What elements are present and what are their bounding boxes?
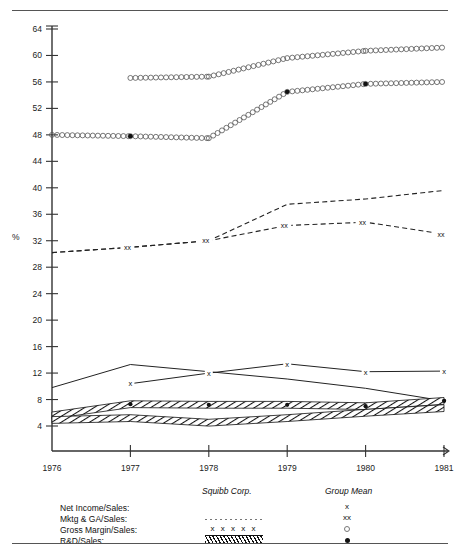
legend-swatch-mktg-ga-group: xx: [337, 513, 357, 522]
svg-text:xx: xx: [438, 231, 446, 238]
x-tick-labels: 197619771978197919801981: [43, 463, 454, 473]
svg-text:1977: 1977: [121, 463, 140, 473]
svg-text:4: 4: [37, 421, 42, 431]
legend-swatch-gross-margin-company: x x x x x: [205, 524, 263, 533]
svg-text:32: 32: [33, 236, 43, 246]
svg-text:xx: xx: [124, 244, 132, 251]
legend-label-mktg-ga: Mktg & GA/Sales:: [60, 514, 127, 524]
bottom-divider: [12, 543, 448, 544]
svg-text:xx: xx: [202, 237, 210, 244]
svg-text:x: x: [285, 360, 289, 369]
svg-text:8: 8: [37, 395, 42, 405]
legend-header-group: Group Mean: [325, 486, 372, 496]
y-axis-unit-label: %: [12, 232, 20, 242]
svg-text:x: x: [207, 369, 211, 378]
svg-text:24: 24: [33, 289, 43, 299]
svg-text:xx: xx: [281, 222, 289, 229]
svg-text:52: 52: [33, 103, 43, 113]
svg-text:12: 12: [33, 368, 43, 378]
svg-text:x: x: [442, 367, 446, 376]
svg-text:36: 36: [33, 209, 43, 219]
legend-label-gross-margin: Gross Margin/Sales:: [60, 525, 137, 535]
legend-swatch-net-income-group: x: [340, 502, 354, 511]
x-axis: [52, 447, 449, 455]
svg-text:1980: 1980: [356, 463, 375, 473]
chart-page: 481216202428323640444852566064 197619771…: [0, 0, 460, 553]
data-series-layer: xxxxxxxxxxxxxxx: [50, 45, 449, 426]
svg-text:64: 64: [33, 24, 43, 34]
svg-text:56: 56: [33, 77, 43, 87]
y-axis: [46, 26, 58, 453]
y-tick-labels: 481216202428323640444852566064: [33, 24, 43, 431]
svg-text:1978: 1978: [199, 463, 218, 473]
legend-label-rd-sales: R&D/Sales:: [60, 536, 104, 546]
chart-legend: Squibb Corp. Group Mean Net Income/Sales…: [0, 486, 460, 544]
legend-label-net-income: Net Income/Sales:: [60, 503, 129, 513]
svg-text:1979: 1979: [278, 463, 297, 473]
svg-text:1976: 1976: [43, 463, 62, 473]
svg-text:60: 60: [33, 50, 43, 60]
legend-swatch-gross-margin-group: [340, 525, 354, 534]
legend-swatch-mktg-ga-company: [205, 519, 263, 520]
chart-canvas: 481216202428323640444852566064 197619771…: [0, 0, 460, 553]
legend-header-company: Squibb Corp.: [202, 486, 252, 496]
svg-text:x: x: [364, 368, 368, 377]
svg-text:40: 40: [33, 183, 43, 193]
svg-text:16: 16: [33, 342, 43, 352]
svg-text:48: 48: [33, 130, 43, 140]
svg-text:xx: xx: [359, 219, 367, 226]
svg-text:20: 20: [33, 315, 43, 325]
svg-text:1981: 1981: [435, 463, 454, 473]
svg-text:x: x: [129, 379, 133, 388]
svg-text:28: 28: [33, 262, 43, 272]
svg-text:44: 44: [33, 156, 43, 166]
